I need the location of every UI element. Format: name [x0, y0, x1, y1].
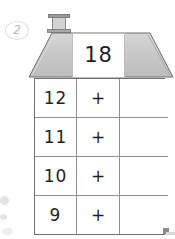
operator-cell: + — [77, 157, 120, 196]
table-row: 12 + — [35, 79, 168, 118]
addend-cell: 11 — [35, 118, 77, 157]
operator-cell: + — [77, 79, 120, 118]
addition-table: 12 + 11 + 10 + 9 + — [35, 79, 168, 234]
operator-cell: + — [77, 118, 120, 157]
scan-artifact — [2, 228, 13, 235]
worksheet-canvas: 2 18 12 — [0, 0, 175, 239]
table-row: 10 + — [35, 157, 168, 196]
answer-cell[interactable] — [120, 79, 169, 118]
scan-artifact — [166, 232, 175, 235]
table-row: 11 + — [35, 118, 168, 157]
sum-answer-box[interactable]: 18 — [72, 33, 125, 78]
operator-cell: + — [77, 195, 120, 234]
addend-cell: 10 — [35, 157, 77, 196]
sum-answer-value: 18 — [73, 34, 124, 77]
house-body: 12 + 11 + 10 + 9 + — [34, 78, 165, 235]
scan-artifact — [0, 196, 9, 205]
answer-cell[interactable] — [120, 118, 169, 157]
answer-cell[interactable] — [120, 195, 169, 234]
question-number: 2 — [5, 21, 29, 40]
addend-cell: 9 — [35, 195, 77, 234]
chimney-icon — [48, 14, 70, 34]
table-row: 9 + — [35, 195, 168, 234]
answer-cell[interactable] — [120, 157, 169, 196]
scan-artifact — [0, 214, 7, 220]
addend-cell: 12 — [35, 79, 77, 118]
